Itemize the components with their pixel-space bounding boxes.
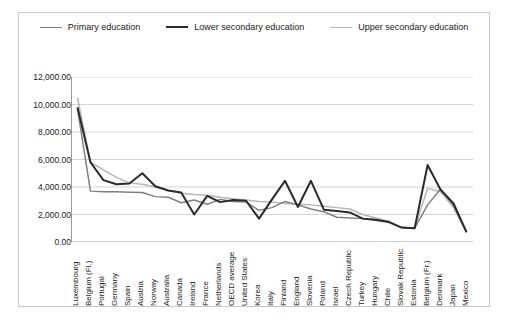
legend-swatch-upper-secondary-education: [330, 27, 352, 28]
x-axis-tick-label: Spain: [123, 286, 132, 306]
x-axis-tick-label: Japan: [448, 284, 457, 306]
x-axis-tick-label: Netherlands: [214, 263, 223, 306]
y-axis-tick-label: 4,000.00: [38, 182, 71, 192]
x-axis-tick-label: Slovenia: [305, 275, 314, 306]
y-axis-tick-label: 8,000.00: [38, 127, 71, 137]
legend-item-lower-secondary-education: Lower secondary education: [166, 22, 304, 32]
legend-item-primary-education: Primary education: [40, 22, 141, 32]
x-axis-tick-label: Slovak Republic: [396, 249, 405, 306]
x-axis-tick-label: Chile: [383, 288, 392, 306]
y-axis-tick-label: 2,000.00: [38, 210, 71, 220]
x-axis-tick-label: Italy: [266, 291, 275, 306]
x-axis-tick-label: Finland: [279, 280, 288, 306]
x-axis-tick-label: Portugal: [97, 276, 106, 306]
x-axis-tick-label: Estonia: [409, 279, 418, 306]
series-line: [77, 109, 466, 233]
y-axis-tick-label: 10,000.00: [33, 100, 71, 110]
x-axis-tick-label: Korea: [253, 285, 262, 306]
chart-legend: Primary education Lower secondary educat…: [19, 13, 489, 41]
series-line: [77, 107, 466, 232]
x-axis-tick-label: Luxembourg: [71, 262, 80, 306]
x-axis-labels: LuxembourgBelgium (Fl.)PortugalGermanySp…: [71, 244, 473, 306]
x-axis-tick-label: Hungary: [370, 276, 379, 306]
legend-swatch-lower-secondary-education: [166, 26, 188, 28]
y-axis-tick-label: 0.00: [54, 237, 71, 247]
legend-label-primary-education: Primary education: [68, 22, 141, 32]
x-axis-tick-label: France: [201, 281, 210, 306]
y-axis-labels: 0.002,000.004,000.006,000.008,000.0010,0…: [19, 77, 71, 242]
legend-label-upper-secondary-education: Upper secondary education: [358, 22, 468, 32]
y-axis-tick-label: 6,000.00: [38, 155, 71, 165]
x-axis-tick-label: Ireland: [188, 282, 197, 306]
x-axis-tick-label: OECD average: [227, 252, 236, 306]
x-axis-tick-label: Norway: [149, 279, 158, 306]
legend-item-upper-secondary-education: Upper secondary education: [330, 22, 468, 32]
x-axis-tick-label: Belgium (Fr.): [422, 260, 431, 306]
x-axis-tick-label: Denmark: [435, 274, 444, 306]
y-axis-tick-label: 12,000.00: [33, 72, 71, 82]
legend-swatch-primary-education: [40, 27, 62, 28]
x-axis-tick-label: Australia: [162, 275, 171, 306]
x-axis-tick-label: Poland: [318, 281, 327, 306]
x-axis-tick-label: United States: [240, 258, 249, 306]
x-axis-tick-label: Belgium (Fl.): [84, 261, 93, 306]
chart-container: Primary education Lower secondary educat…: [18, 12, 490, 307]
x-axis-tick-label: England: [292, 277, 301, 306]
chart-svg: [71, 77, 473, 242]
x-axis-tick-label: Czech Republic: [344, 250, 353, 306]
series-line: [77, 98, 466, 233]
plot-area-wrapper: 0.002,000.004,000.006,000.008,000.0010,0…: [19, 41, 491, 308]
x-axis-tick-label: Israel: [331, 286, 340, 306]
legend-label-lower-secondary-education: Lower secondary education: [194, 22, 304, 32]
x-axis-tick-label: Germany: [110, 273, 119, 306]
x-axis-tick-label: Austria: [136, 281, 145, 306]
plot-area: [71, 77, 473, 242]
x-axis-tick-label: Mexico: [461, 281, 470, 306]
x-axis-tick-label: Turkey: [357, 282, 366, 306]
x-axis-tick-label: Canada: [175, 278, 184, 306]
